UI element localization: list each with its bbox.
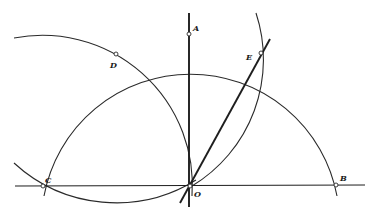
construction-diagram: O A B C D E xyxy=(0,0,378,217)
label-C: C xyxy=(45,175,52,185)
point-O xyxy=(188,184,192,188)
point-D xyxy=(114,52,118,56)
label-O: O xyxy=(194,189,201,199)
point-B xyxy=(334,183,338,187)
point-A xyxy=(187,32,191,36)
label-E: E xyxy=(245,52,253,62)
line-ray-OE xyxy=(180,39,270,203)
diagram-canvas: O A B C D E xyxy=(0,0,378,217)
label-B: B xyxy=(339,173,347,183)
point-E xyxy=(259,51,263,55)
label-D: D xyxy=(109,60,117,70)
arc-center-D xyxy=(14,163,196,203)
label-A: A xyxy=(192,23,199,33)
arc-center-O xyxy=(44,74,337,196)
arc-center-C xyxy=(14,35,192,196)
